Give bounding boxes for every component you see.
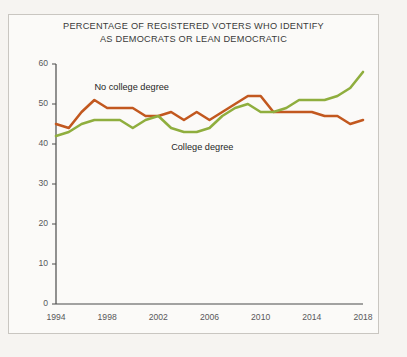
- x-tick-label: 2010: [241, 312, 281, 322]
- y-tick-label: 30: [22, 178, 48, 188]
- plot-area: 0102030405060 19941998200220062010201420…: [8, 14, 379, 334]
- x-tick-label: 1998: [87, 312, 127, 322]
- x-tick-label: 2014: [292, 312, 332, 322]
- y-tick-label: 50: [22, 98, 48, 108]
- chart-canvas: [8, 14, 379, 334]
- y-tick-label: 60: [22, 58, 48, 68]
- x-tick-label: 2006: [190, 312, 230, 322]
- y-tick-label: 10: [22, 258, 48, 268]
- x-tick-label: 2002: [138, 312, 178, 322]
- series-annotation: No college degree: [94, 82, 169, 92]
- x-tick-label: 1994: [36, 312, 76, 322]
- x-tick-label: 2018: [343, 312, 383, 322]
- chart-page: PERCENTAGE OF REGISTERED VOTERS WHO IDEN…: [0, 0, 407, 357]
- y-tick-label: 40: [22, 138, 48, 148]
- series-annotation: College degree: [171, 142, 233, 152]
- y-tick-label: 0: [22, 298, 48, 308]
- y-tick-label: 20: [22, 218, 48, 228]
